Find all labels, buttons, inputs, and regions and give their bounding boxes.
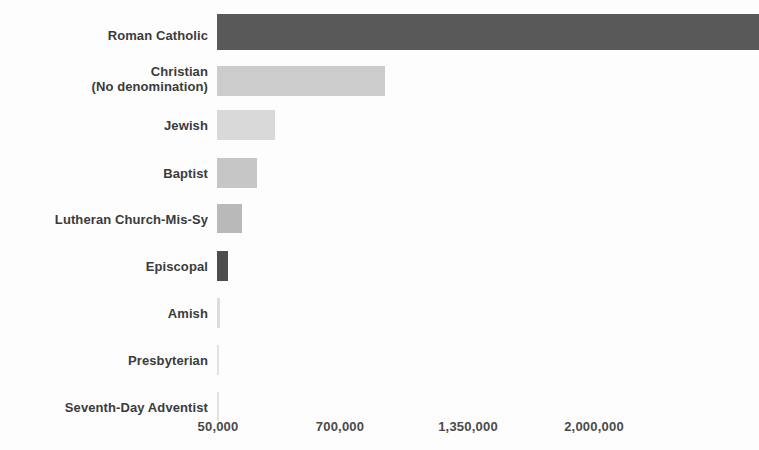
x-tick-label-3: 2,000,000 — [564, 419, 624, 434]
bar-amish — [217, 298, 220, 328]
bar-row: Episcopal — [0, 245, 759, 285]
plot-area: Roman Catholic Christian (No denominatio… — [0, 0, 759, 450]
bar-episcopal — [217, 251, 228, 281]
category-label-seventh-day-adventist: Seventh-Day Adventist — [0, 400, 208, 415]
category-label-christian-line2: (No denomination) — [0, 79, 208, 94]
bar-row: Jewish — [0, 104, 759, 144]
x-tick-label-2: 1,350,000 — [438, 419, 498, 434]
bar-roman-catholic — [217, 14, 759, 50]
category-label-amish: Amish — [0, 306, 208, 321]
x-axis-tick-labels: 50,000 700,000 1,350,000 2,000,000 — [0, 419, 759, 443]
bar-seventh-day-adventist — [217, 392, 219, 421]
bar-lutheran — [217, 204, 242, 233]
category-label-lutheran: Lutheran Church-Mis-Sy — [0, 212, 208, 227]
category-label-baptist: Baptist — [0, 166, 208, 181]
bar-row: Roman Catholic — [0, 8, 759, 48]
bar-presbyterian — [217, 345, 219, 375]
x-tick-label-1: 700,000 — [316, 419, 364, 434]
category-label-episcopal: Episcopal — [0, 259, 208, 274]
category-label-christian: Christian (No denomination) — [0, 64, 208, 94]
category-label-roman-catholic: Roman Catholic — [0, 28, 208, 43]
category-label-presbyterian: Presbyterian — [0, 353, 208, 368]
bar-row: Presbyterian — [0, 339, 759, 379]
bar-jewish — [217, 110, 275, 140]
x-tick-label-0: 50,000 — [198, 419, 239, 434]
bar-row: Christian (No denomination) — [0, 54, 759, 94]
category-label-christian-line1: Christian — [151, 64, 208, 79]
bar-row: Lutheran Church-Mis-Sy — [0, 198, 759, 238]
bar-christian — [217, 66, 385, 96]
bar-row: Baptist — [0, 152, 759, 192]
category-label-jewish: Jewish — [0, 118, 208, 133]
bar-chart: Roman Catholic Christian (No denominatio… — [0, 0, 759, 450]
bar-baptist — [217, 158, 257, 188]
bar-row: Amish — [0, 292, 759, 332]
